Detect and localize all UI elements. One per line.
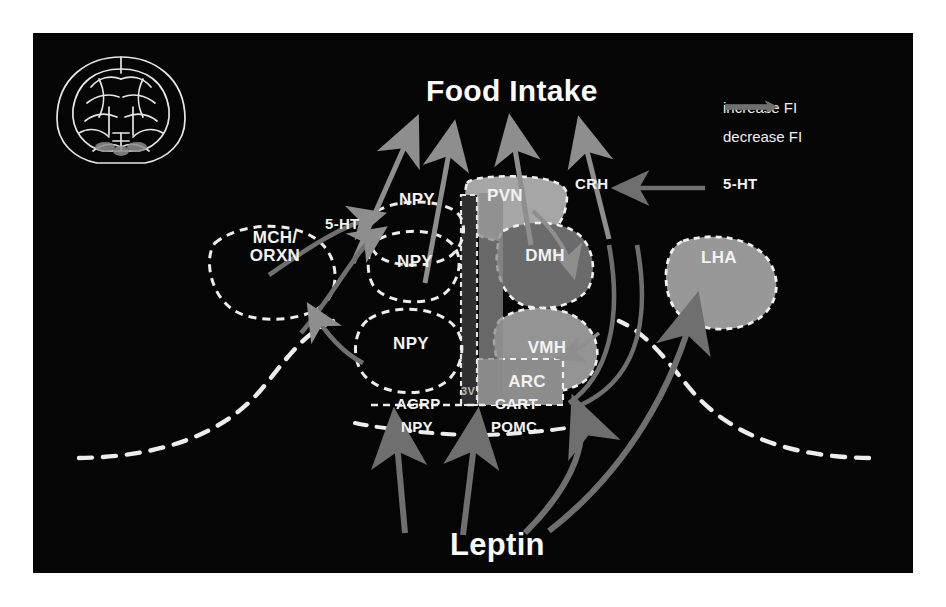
- annotation-serotonin-left: 5-HT: [325, 215, 360, 232]
- arrow-npy-to-mch: [311, 309, 363, 363]
- legend-item-decrease: decrease FI: [723, 128, 913, 145]
- node-label-orxn: ORXN: [229, 247, 321, 265]
- legend-label-decrease: decrease FI: [723, 128, 802, 145]
- brain-outline-left: [79, 321, 333, 458]
- figure-root: increase FI decrease FI Food Intake Lept…: [0, 0, 946, 607]
- node-label-npy-low: NPY: [385, 335, 437, 353]
- annotation-npy-arc: NPY: [401, 418, 433, 435]
- node-label-npy-mid: NPY: [389, 253, 441, 271]
- node-label-dmh: DMH: [517, 247, 573, 265]
- hypothalamic-band: [479, 193, 503, 405]
- annotation-cart: CART: [495, 395, 538, 412]
- node-label-arc: ARC: [503, 373, 551, 391]
- node-label-mch-orxn: MCH/ ORXN: [229, 229, 321, 265]
- label-leptin: Leptin: [450, 527, 545, 563]
- brain-outline-right: [619, 321, 869, 458]
- node-label-lha: LHA: [693, 249, 745, 267]
- legend: increase FI decrease FI: [723, 99, 913, 145]
- arrow-right-icon: [723, 99, 779, 115]
- node-label-pvn: PVN: [479, 187, 531, 205]
- node-label-vmh: VMH: [519, 339, 575, 357]
- diagram-panel: increase FI decrease FI Food Intake Lept…: [33, 33, 913, 573]
- node-label-npy-top: NPY: [391, 191, 443, 209]
- annotation-pomc: POMC: [491, 418, 537, 435]
- node-dmh-shape: [497, 223, 593, 308]
- page-title-food-intake: Food Intake: [426, 74, 598, 108]
- annotation-agrp: AGRP: [396, 395, 441, 412]
- annotation-serotonin-right: 5-HT: [723, 175, 758, 192]
- annotation-crh: CRH: [575, 175, 608, 192]
- node-label-third-ventricle: 3V: [461, 385, 475, 397]
- node-label-mch: MCH/: [229, 229, 321, 247]
